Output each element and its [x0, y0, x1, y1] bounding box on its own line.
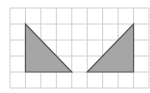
left-triangle	[25, 24, 71, 72]
shapes	[25, 24, 133, 72]
right-triangle	[87, 24, 133, 72]
grid-diagram	[0, 0, 150, 93]
